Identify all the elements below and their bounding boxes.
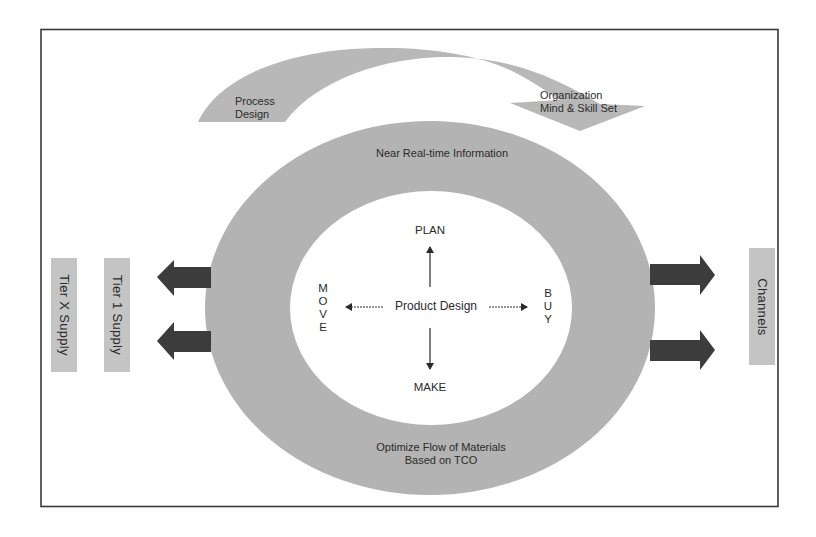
tier-x-supply-box: Tier X Supply [51, 258, 77, 372]
move-letter-o: O [316, 295, 330, 308]
channels-label: Channels [755, 278, 770, 335]
optimize-flow-line-2: Based on TCO [376, 454, 506, 467]
tier-x-supply-label: Tier X Supply [57, 274, 72, 355]
optimize-flow-line-1: Optimize Flow of Materials [376, 441, 506, 454]
move-letter-v: V [316, 308, 330, 321]
right-arrow-top [650, 255, 715, 295]
buy-label: B U Y [541, 287, 555, 326]
buy-letter-b: B [541, 287, 555, 300]
right-arrow-bottom [650, 330, 715, 370]
left-arrow-top [157, 260, 211, 296]
optimize-flow-label: Optimize Flow of Materials Based on TCO [376, 441, 506, 467]
organization-label: Organization Mind & Skill Set [540, 89, 617, 115]
organization-line-1: Organization [540, 89, 617, 102]
left-arrow-bottom [157, 322, 211, 360]
tier-1-supply-label: Tier 1 Supply [110, 275, 125, 355]
buy-letter-u: U [541, 300, 555, 313]
make-label: MAKE [414, 381, 447, 394]
process-design-line-1: Process [235, 95, 275, 108]
process-design-label: Process Design [235, 95, 275, 121]
near-real-time-label: Near Real-time Information [376, 147, 508, 160]
channels-box: Channels [749, 248, 775, 365]
move-label: M O V E [316, 282, 330, 334]
product-design-label: Product Design [395, 300, 477, 313]
plan-label: PLAN [415, 224, 445, 237]
buy-letter-y: Y [541, 313, 555, 326]
move-letter-m: M [316, 282, 330, 295]
organization-line-2: Mind & Skill Set [540, 102, 617, 115]
process-design-line-2: Design [235, 108, 275, 121]
move-letter-e: E [316, 321, 330, 334]
supply-chain-diagram: Process Design Organization Mind & Skill… [0, 0, 816, 537]
tier-1-supply-box: Tier 1 Supply [104, 258, 130, 372]
